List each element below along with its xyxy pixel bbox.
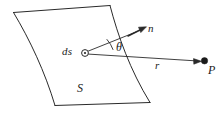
label-point-p: P: [208, 64, 215, 76]
surface-left-edge: [14, 13, 56, 106]
label-theta: θ: [116, 41, 122, 53]
angle-arc-theta: [107, 40, 113, 50]
label-ds: ds: [62, 46, 72, 57]
arrow-n: [128, 27, 147, 36]
filled-dot-P: [201, 58, 207, 64]
open-circle-ds: [82, 50, 89, 57]
surface-diagram-svg: [0, 0, 224, 113]
label-normal: n: [148, 23, 154, 34]
arrowhead-n: [139, 27, 147, 33]
surface-top-edge: [14, 6, 111, 13]
surface-right-edge: [110, 6, 150, 103]
arrowhead-r: [194, 59, 202, 65]
label-r: r: [155, 60, 159, 71]
label-surface: S: [77, 82, 83, 94]
arrow-r: [87, 54, 202, 64]
surface-bottom-edge: [55, 103, 150, 106]
figure-container: ds n θ r P S: [0, 0, 224, 113]
